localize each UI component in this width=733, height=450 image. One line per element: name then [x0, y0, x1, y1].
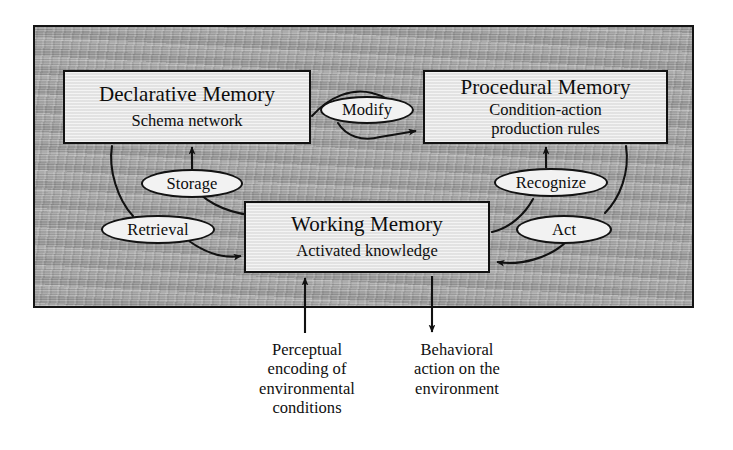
node-procedural-memory-subtitle-line2: production rules: [489, 120, 602, 138]
caption-perceptual-input: Perceptual encoding of environmental con…: [222, 340, 392, 417]
node-procedural-memory-title: Procedural Memory: [460, 76, 630, 99]
caption-perceptual-line4: conditions: [222, 398, 392, 417]
caption-behavioral-line3: environment: [372, 379, 542, 398]
caption-behavioral-line1: Behavioral: [372, 340, 542, 359]
edge-label-act[interactable]: Act: [516, 215, 612, 244]
node-procedural-memory[interactable]: Procedural Memory Condition-action produ…: [423, 70, 668, 144]
caption-perceptual-line1: Perceptual: [222, 340, 392, 359]
node-declarative-memory-subtitle: Schema network: [131, 112, 242, 130]
node-declarative-memory-title: Declarative Memory: [99, 83, 275, 106]
edge-modify-arrow-path: [338, 123, 380, 139]
edge-retrieval-path: [111, 146, 133, 216]
edge-act-arrow-path: [497, 241, 567, 263]
edge-label-recognize[interactable]: Recognize: [494, 168, 608, 197]
edge-label-retrieval[interactable]: Retrieval: [101, 215, 215, 244]
node-working-memory-title: Working Memory: [291, 213, 443, 236]
edge-act-path: [605, 146, 627, 213]
node-working-memory-subtitle: Activated knowledge: [296, 242, 438, 260]
node-procedural-memory-subtitle-line1: Condition-action: [489, 100, 602, 119]
caption-behavioral-line2: action on the: [372, 359, 542, 378]
edge-retrieval-arrow-path: [189, 241, 241, 257]
node-working-memory[interactable]: Working Memory Activated knowledge: [244, 201, 490, 273]
edge-label-storage[interactable]: Storage: [141, 169, 243, 198]
caption-behavioral-output: Behavioral action on the environment: [372, 340, 542, 398]
node-procedural-memory-subtitle: Condition-action production rules: [489, 101, 602, 138]
edge-label-modify[interactable]: Modify: [320, 96, 414, 124]
diagram-root: Declarative Memory Schema network Proced…: [0, 0, 733, 450]
caption-perceptual-line2: encoding of: [222, 359, 392, 378]
caption-perceptual-line3: environmental: [222, 379, 392, 398]
node-declarative-memory[interactable]: Declarative Memory Schema network: [63, 70, 311, 144]
edge-modify-arrowhead-path: [380, 131, 416, 137]
